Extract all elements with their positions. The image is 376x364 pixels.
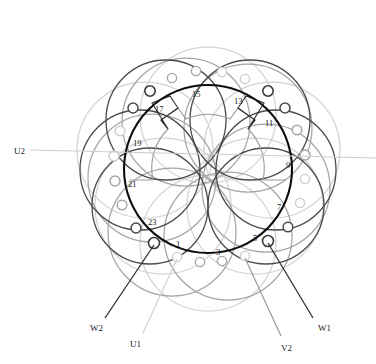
u-phase-loop-arc [140,175,276,311]
terminal-node[interactable] [128,103,138,113]
slot-label-15: 15 [192,90,201,99]
terminal-node[interactable] [263,236,274,247]
terminal-label-w2: W2 [90,324,103,333]
terminal-node[interactable] [191,66,200,75]
terminal-node[interactable] [292,125,302,135]
slot-label-7: 7 [277,203,281,212]
v-phase-loop-arc [164,172,292,300]
lead-line-v2 [245,258,281,336]
v-phase-loop-arc [122,58,250,186]
slot-label-11: 11 [265,119,273,128]
terminal-node[interactable] [280,103,290,113]
terminal-node[interactable] [217,67,226,76]
terminal-node[interactable] [263,86,273,96]
terminal-label-w1: W1 [318,324,331,333]
terminal-node[interactable] [300,150,310,160]
w-phase-loop-arc [80,110,200,230]
terminal-node[interactable] [167,73,176,82]
slot-label-19: 19 [133,139,142,148]
slot-label-23: 23 [148,218,157,227]
slot-label-13: 13 [234,97,243,106]
u-phase-loop-arc [204,82,340,218]
terminal-node[interactable] [115,126,125,136]
terminal-label-u2: U2 [14,147,25,156]
slot-label-17: 17 [155,105,164,114]
terminal-node[interactable] [217,256,226,265]
terminal-node[interactable] [149,238,160,249]
slot-label-5: 5 [253,234,257,243]
stator-winding-svg [0,0,376,364]
terminal-node[interactable] [195,257,204,266]
winding-diagram-canvas: 1 3 5 7 9 11 13 15 17 19 21 23 U1 U2 V2 … [0,0,376,364]
slot-label-9: 9 [286,161,290,170]
bore-arc [130,108,286,180]
terminal-node[interactable] [145,86,155,96]
slot-label-1: 1 [176,240,180,249]
terminal-label-v2: V2 [281,344,292,353]
terminal-node[interactable] [110,176,120,186]
terminal-node[interactable] [300,174,309,183]
stator-bore-group [130,108,286,180]
slot-label-3: 3 [216,248,220,257]
stator-outer-core-circle [124,85,292,253]
slot-label-21: 21 [128,180,137,189]
w-phase-loop-arc [216,110,336,230]
terminal-node[interactable] [131,223,141,233]
terminal-node[interactable] [283,222,293,232]
terminal-node[interactable] [117,200,127,210]
w-phase-endwinding-group [80,60,336,264]
terminal-label-u1: U1 [130,340,141,349]
terminal-node[interactable] [240,74,249,83]
terminal-node[interactable] [295,198,304,207]
